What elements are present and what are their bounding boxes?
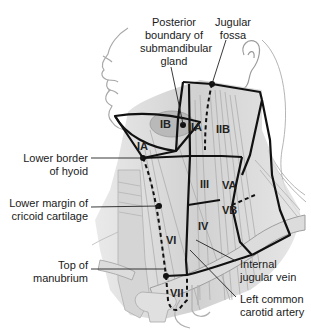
- label-line: Lower margin of: [0, 197, 88, 210]
- label-line: Lower border: [0, 152, 88, 165]
- label-line: carotid artery: [240, 306, 304, 319]
- label-line: Top of: [0, 259, 88, 272]
- level-VII-label: VII: [170, 287, 183, 299]
- level-III-label: III: [200, 178, 209, 190]
- lower-margin-cricoid-label: Lower margin of cricoid cartilage: [0, 197, 88, 223]
- level-IIB-label: IIB: [216, 123, 230, 135]
- level-IB-label: IB: [160, 118, 171, 130]
- label-line: Posterior: [140, 16, 208, 29]
- level-VI-label: VI: [166, 234, 176, 246]
- label-line: fossa: [208, 29, 258, 42]
- top-of-manubrium-label: Top of manubrium: [0, 259, 88, 285]
- level-VB-label: VB: [222, 204, 237, 216]
- label-line: cricoid cartilage: [0, 210, 88, 223]
- label-line: gland: [140, 55, 208, 68]
- label-line: of hyoid: [0, 165, 88, 178]
- level-VA-label: VA: [222, 179, 237, 191]
- label-line: Left common: [240, 293, 304, 306]
- label-line: jugular vein: [240, 271, 296, 284]
- ear-outline: [243, 41, 260, 88]
- label-line: submandibular: [140, 42, 208, 55]
- level-IIA-label: IIA: [188, 121, 202, 133]
- internal-jugular-vein-label: Internal jugular vein: [240, 258, 296, 284]
- label-line: manubrium: [0, 272, 88, 285]
- left-common-carotid-label: Left common carotid artery: [240, 293, 304, 319]
- label-line: Internal: [240, 258, 296, 271]
- level-IV-label: IV: [198, 220, 209, 232]
- jugular-fossa-label: Jugular fossa: [208, 16, 258, 42]
- label-line: Jugular: [208, 16, 258, 29]
- label-line: boundary of: [140, 29, 208, 42]
- lower-border-hyoid-label: Lower border of hyoid: [0, 152, 88, 178]
- level-IA-label: IA: [137, 140, 148, 152]
- posterior-boundary-label: Posterior boundary of submandibular glan…: [140, 16, 208, 68]
